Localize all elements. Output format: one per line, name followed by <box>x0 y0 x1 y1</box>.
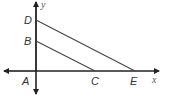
point-label-E: E <box>130 75 138 87</box>
point-label-D: D <box>24 14 32 26</box>
segment-DE <box>36 20 135 71</box>
coordinate-diagram: y x D B A C E <box>0 0 169 100</box>
point-label-B: B <box>24 35 31 47</box>
x-axis-label: x <box>151 74 157 85</box>
point-label-A: A <box>21 75 29 87</box>
y-axis-label: y <box>40 0 46 10</box>
point-label-C: C <box>91 75 99 87</box>
